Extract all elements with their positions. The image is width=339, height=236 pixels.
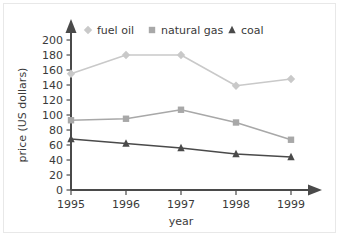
x-axis-tick-label: 1998 bbox=[222, 198, 250, 211]
y-axis-tick-label: 40 bbox=[49, 154, 63, 167]
series-line bbox=[71, 110, 291, 140]
series-line bbox=[71, 55, 291, 86]
square-marker-icon bbox=[149, 27, 155, 33]
arrow-right-icon bbox=[308, 185, 322, 196]
y-axis-tick-label: 80 bbox=[49, 124, 63, 137]
series-fuel-oil bbox=[67, 51, 295, 90]
y-axis-title: price (US dollars) bbox=[16, 68, 29, 163]
chart-legend: fuel oilnatural gascoal bbox=[84, 24, 264, 37]
y-axis-tick-label: 200 bbox=[42, 34, 63, 47]
data-point-marker bbox=[122, 51, 130, 59]
line-chart-figure: 0204060801001201401601802001995199619971… bbox=[0, 0, 339, 236]
x-axis-tick-label: 1995 bbox=[57, 198, 85, 211]
x-axis-title: year bbox=[169, 215, 194, 228]
y-axis-ticks: 020406080100120140160180200 bbox=[42, 34, 71, 197]
series-natural-gas bbox=[68, 107, 294, 143]
data-point-marker bbox=[288, 137, 294, 143]
data-point-marker bbox=[233, 119, 239, 125]
axes-group bbox=[66, 19, 323, 196]
y-axis-tick-label: 120 bbox=[42, 94, 63, 107]
y-axis-tick-label: 140 bbox=[42, 79, 63, 92]
data-point-marker bbox=[287, 75, 295, 83]
legend-label-natural-gas: natural gas bbox=[161, 24, 224, 37]
triangle-marker-icon bbox=[228, 26, 235, 34]
arrow-up-icon bbox=[66, 19, 77, 33]
y-axis-tick-label: 20 bbox=[49, 169, 63, 182]
data-point-marker bbox=[123, 116, 129, 122]
y-axis-tick-label: 180 bbox=[42, 49, 63, 62]
y-axis-tick-label: 160 bbox=[42, 64, 63, 77]
data-point-marker bbox=[178, 107, 184, 113]
data-point-marker bbox=[177, 51, 185, 59]
chart-canvas: 0204060801001201401601802001995199619971… bbox=[0, 0, 339, 236]
y-axis-tick-label: 100 bbox=[42, 109, 63, 122]
x-axis-tick-label: 1997 bbox=[167, 198, 195, 211]
y-axis-tick-label: 60 bbox=[49, 139, 63, 152]
diamond-marker-icon bbox=[84, 26, 92, 34]
legend-label-fuel-oil: fuel oil bbox=[97, 24, 134, 37]
data-point-marker bbox=[67, 70, 75, 78]
x-axis-ticks: 19951996199719981999 bbox=[57, 190, 305, 211]
legend-label-coal: coal bbox=[241, 24, 264, 37]
y-axis-tick-label: 0 bbox=[56, 184, 63, 197]
x-axis-tick-label: 1999 bbox=[277, 198, 305, 211]
data-point-marker bbox=[232, 82, 240, 90]
data-point-marker bbox=[68, 117, 74, 123]
x-axis-tick-label: 1996 bbox=[112, 198, 140, 211]
series-coal bbox=[67, 135, 294, 161]
